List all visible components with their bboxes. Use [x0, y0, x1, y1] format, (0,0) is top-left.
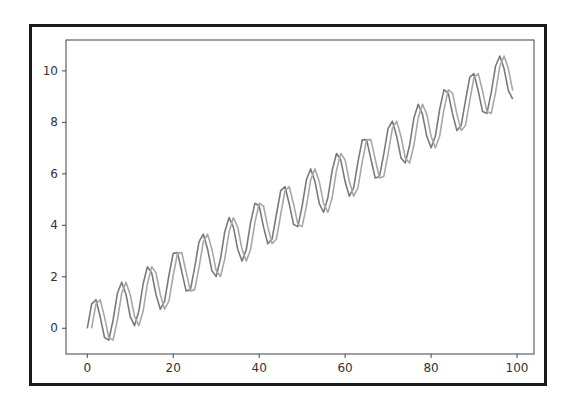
plot-area	[66, 40, 534, 354]
y-tick-label: 4	[50, 218, 58, 232]
x-tick-label: 40	[252, 361, 267, 375]
x-tick-label: 0	[83, 361, 91, 375]
y-tick-label: 2	[50, 270, 58, 284]
x-tick-label: 80	[423, 361, 438, 375]
x-axis: 020406080100	[83, 354, 528, 375]
y-axis: 0246810	[43, 64, 66, 335]
series-layer	[87, 56, 512, 340]
x-tick-label: 100	[506, 361, 529, 375]
y-tick-label: 10	[43, 64, 58, 78]
y-tick-label: 8	[50, 115, 58, 129]
y-tick-label: 6	[50, 167, 58, 181]
line-chart: 020406080100 0246810	[0, 0, 573, 406]
y-tick-label: 0	[50, 321, 58, 335]
x-tick-label: 60	[337, 361, 352, 375]
series-1-line	[87, 56, 512, 340]
x-tick-label: 20	[166, 361, 181, 375]
